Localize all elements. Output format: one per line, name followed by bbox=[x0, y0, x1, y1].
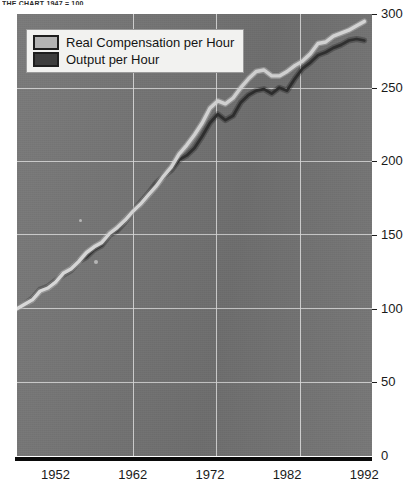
y-axis-tick-50 bbox=[372, 382, 377, 383]
chart-legend: Real Compensation per Hour Output per Ho… bbox=[26, 29, 244, 73]
y-axis-label-50: 50 bbox=[381, 375, 395, 388]
chart-plot-area bbox=[17, 14, 372, 456]
y-axis-tick-200 bbox=[372, 161, 377, 162]
legend-label-real-compensation: Real Compensation per Hour bbox=[66, 36, 234, 49]
x-axis-label-1992: 1992 bbox=[350, 468, 379, 481]
clipped-header-text: THE CHART 1947 = 100 bbox=[2, 0, 84, 5]
x-axis-rule bbox=[15, 457, 372, 461]
x-axis-label-1982: 1982 bbox=[273, 468, 302, 481]
y-axis-tick-150 bbox=[372, 235, 377, 236]
x-axis-label-1962: 1962 bbox=[118, 468, 147, 481]
y-axis-label-300: 300 bbox=[381, 7, 403, 20]
y-axis-tick-100 bbox=[372, 309, 377, 310]
y-axis-tick-300 bbox=[372, 14, 377, 15]
legend-swatch-real-compensation bbox=[33, 35, 59, 50]
legend-item-real-compensation: Real Compensation per Hour bbox=[33, 34, 234, 51]
y-axis-label-100: 100 bbox=[381, 302, 403, 315]
y-axis-tick-250 bbox=[372, 88, 377, 89]
y-axis-label-150: 150 bbox=[381, 228, 403, 241]
legend-item-output: Output per Hour bbox=[33, 51, 234, 68]
chart-series-lines bbox=[17, 14, 372, 456]
legend-swatch-output bbox=[33, 52, 59, 67]
x-axis-label-1972: 1972 bbox=[195, 468, 224, 481]
x-axis-label-1952: 1952 bbox=[41, 468, 70, 481]
y-axis-label-250: 250 bbox=[381, 81, 403, 94]
y-axis-label-200: 200 bbox=[381, 154, 403, 167]
y-axis-label-0: 0 bbox=[381, 449, 388, 462]
legend-label-output: Output per Hour bbox=[66, 53, 159, 66]
